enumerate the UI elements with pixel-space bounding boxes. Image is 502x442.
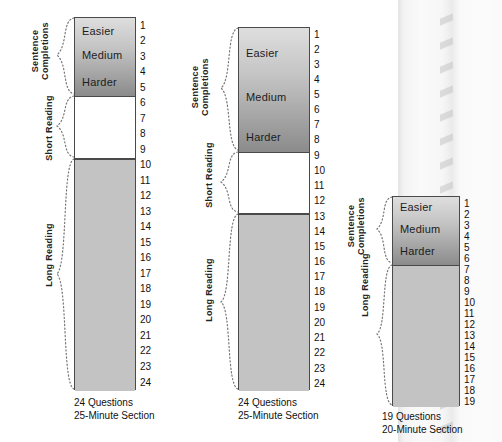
section-1-bar: Easier Medium Harder (74, 17, 136, 390)
section-1-caption-time: 25-Minute Section (74, 409, 155, 422)
section-1-segment-short-reading (75, 96, 135, 159)
section-3-difficulty-medium: Medium (400, 223, 440, 235)
section-2-difficulty-medium: Medium (246, 91, 286, 103)
section-3-bar: Easier Medium Harder (392, 196, 460, 406)
section-2-label-short-reading: Short Reading (204, 135, 214, 215)
section-3-caption: 19 Questions 20-Minute Section (382, 410, 463, 436)
section-2-segment-short-reading (239, 152, 309, 214)
section-1-difficulty-easier: Easier (82, 25, 114, 37)
section-2-brace-short-reading (218, 151, 240, 213)
section-1-difficulty-harder: Harder (82, 76, 117, 88)
section-2-caption-questions: 24 Questions (238, 396, 319, 409)
section-2-difficulty-harder: Harder (246, 131, 281, 143)
section-1-column: Sentence Completions Short Reading Long … (0, 0, 180, 442)
section-1-question-numbers: 1 2 3 4 5 6 7 8 9 10 11 12 13 14 15 16 1… (140, 17, 162, 390)
section-1-segment-long-reading (75, 159, 135, 391)
section-2-bar: Easier Medium Harder (238, 27, 310, 390)
section-2-caption-time: 25-Minute Section (238, 409, 319, 422)
section-2-brace-sentence-completions (218, 27, 240, 151)
section-1-difficulty-medium: Medium (82, 49, 122, 61)
section-3-label-long-reading: Long Reading (360, 215, 370, 355)
section-2-label-sentence-completions: Sentence Completions (190, 42, 210, 132)
sat-critical-reading-section-structure-diagram: Sentence Completions Short Reading Long … (0, 0, 502, 442)
section-3-brace-long-reading (374, 264, 394, 406)
section-2-question-numbers: 1 2 3 4 5 6 7 8 9 10 11 12 13 14 15 16 1… (314, 27, 336, 390)
section-3-question-numbers: 1 2 3 4 5 6 7 8 9 10 11 12 13 14 15 16 1… (464, 196, 486, 406)
section-1-caption-questions: 24 Questions (74, 396, 155, 409)
section-3-difficulty-easier: Easier (400, 201, 432, 213)
section-2-label-long-reading: Long Reading (204, 230, 214, 350)
section-1-brace-long-reading (54, 158, 76, 390)
section-2-segment-long-reading (239, 214, 309, 391)
section-2-difficulty-easier: Easier (246, 47, 278, 59)
section-2-brace-long-reading (218, 213, 240, 390)
section-3-caption-questions: 19 Questions (382, 410, 463, 423)
section-3-difficulty-harder: Harder (400, 245, 435, 257)
section-2-column: Sentence Completions Short Reading Long … (180, 0, 350, 442)
section-1-label-long-reading: Long Reading (44, 180, 54, 330)
section-3-column: Sentence Completions Long Reading Easier… (340, 0, 502, 442)
section-3-brace-sentence-completions (374, 196, 394, 264)
section-1-caption: 24 Questions 25-Minute Section (74, 396, 155, 422)
section-3-segment-long-reading (393, 265, 459, 407)
section-1-brace-sentence-completions (54, 17, 76, 95)
section-3-caption-time: 20-Minute Section (382, 423, 463, 436)
section-1-label-short-reading: Short Reading (44, 91, 54, 165)
section-2-caption: 24 Questions 25-Minute Section (238, 396, 319, 422)
section-1-brace-short-reading (54, 95, 76, 158)
section-1-label-sentence-completions: Sentence Completions (30, 6, 50, 96)
